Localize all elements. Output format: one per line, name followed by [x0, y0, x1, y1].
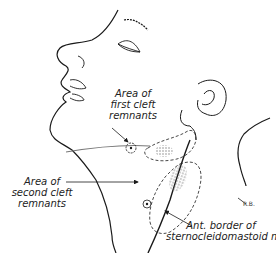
anatomy-figure: Area of first cleft remnants Area of sec…: [0, 0, 276, 253]
artist-signature: R.B.: [243, 200, 255, 207]
scm-label: Ant. border of sternocleidomastoid m.: [166, 220, 276, 242]
eyebrow: [124, 19, 148, 30]
ear: [197, 80, 226, 115]
nostril: [78, 56, 84, 68]
second-cleft-stipple: [166, 162, 191, 194]
illustration-svg: [0, 0, 276, 253]
back-of-neck: [238, 118, 270, 186]
lips: [70, 80, 86, 101]
mandible-line: [66, 145, 150, 152]
first-cleft-stipple: [155, 145, 173, 157]
jaw-line: [180, 110, 196, 140]
second-cleft-label: Area of second cleft remnants: [6, 176, 78, 209]
eye: [118, 41, 140, 52]
face-profile: [50, 10, 118, 253]
first-cleft-leader: [112, 128, 128, 142]
first-cleft-label: Area of first cleft remnants: [98, 88, 168, 121]
